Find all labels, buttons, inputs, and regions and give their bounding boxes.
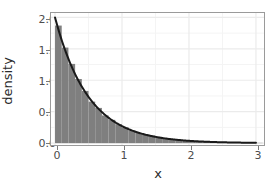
x-tick-label-1: 1	[112, 150, 136, 161]
histogram-bar	[82, 91, 89, 143]
x-tick-label-0: 0	[45, 150, 69, 161]
histogram-bar	[55, 26, 62, 144]
density-histogram-chart: density 2.0 1.5 1.0 0.5 0.0 0 1 2 3 x	[0, 0, 277, 191]
histogram-bars	[55, 26, 263, 144]
histogram-bar	[109, 120, 116, 143]
histogram-bar	[62, 48, 69, 144]
histogram-bar	[89, 102, 96, 143]
x-tick-label-3: 3	[246, 150, 270, 161]
histogram-bar	[75, 79, 82, 143]
histogram-bar	[95, 108, 102, 143]
x-axis-title: x	[50, 167, 266, 181]
histogram-bar	[115, 124, 122, 143]
y-axis-title: density	[1, 4, 15, 159]
histogram-bar	[135, 133, 142, 143]
histogram-bar	[102, 115, 109, 143]
plot-panel	[50, 12, 265, 146]
histogram-bar	[129, 131, 136, 144]
plot-area	[51, 13, 264, 145]
histogram-bar	[68, 64, 75, 143]
x-tick-label-2: 2	[179, 150, 203, 161]
